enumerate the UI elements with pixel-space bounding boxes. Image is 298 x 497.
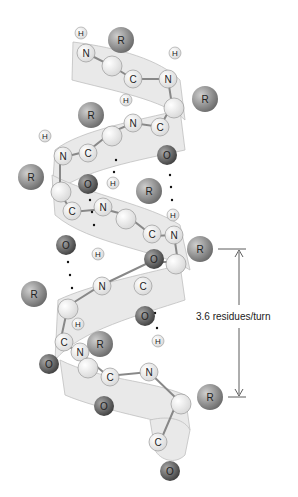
svg-text:O: O [150,254,158,265]
alpha-helix-diagram: R R R R R R R R R O O O O O O O O N C N … [0,0,298,497]
svg-text:H: H [172,49,178,58]
svg-text:O: O [163,150,171,161]
svg-text:H: H [170,211,176,220]
svg-text:H: H [155,337,161,346]
svg-text:N: N [99,202,106,213]
svg-text:R: R [196,244,203,255]
svg-text:R: R [27,172,34,183]
svg-text:R: R [201,94,208,105]
svg-text:C: C [60,337,67,348]
turn-measurement [218,249,246,397]
svg-text:O: O [84,179,92,190]
residues-per-turn-label: 3.6 residues/turn [196,311,271,322]
svg-text:R: R [117,35,124,46]
svg-text:R: R [206,392,213,403]
svg-text:H: H [42,132,48,141]
svg-text:H: H [75,320,81,329]
svg-text:O: O [100,401,108,412]
svg-text:H: H [78,29,84,38]
svg-text:C: C [106,372,113,383]
svg-text:H: H [95,250,101,259]
svg-text:H: H [123,96,129,105]
svg-text:R: R [145,186,152,197]
svg-text:O: O [166,466,174,477]
svg-text:N: N [59,151,66,162]
svg-text:O: O [45,359,53,370]
svg-text:N: N [98,281,105,292]
svg-text:R: R [87,110,94,121]
svg-text:N: N [82,48,89,59]
svg-text:N: N [76,347,83,358]
svg-text:R: R [30,289,37,300]
svg-text:C: C [84,148,91,159]
svg-text:C: C [139,281,146,292]
svg-text:C: C [68,206,75,217]
svg-text:N: N [170,230,177,241]
svg-text:O: O [141,311,149,322]
svg-text:C: C [156,122,163,133]
svg-text:N: N [164,74,171,85]
svg-text:R: R [96,339,103,350]
svg-text:C: C [148,229,155,240]
svg-text:O: O [62,240,70,251]
svg-text:N: N [145,367,152,378]
svg-text:C: C [129,74,136,85]
svg-text:C: C [154,437,161,448]
svg-text:H: H [110,179,116,188]
svg-text:N: N [129,118,136,129]
